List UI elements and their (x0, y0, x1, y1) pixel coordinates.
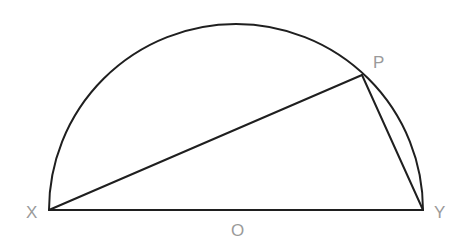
semicircle-arc (49, 24, 423, 210)
label-y: Y (434, 203, 445, 222)
label-p: P (373, 53, 384, 72)
chord-xp (49, 75, 362, 210)
label-x: X (26, 203, 37, 222)
geometry-diagram: X Y P O (0, 0, 465, 240)
chord-py (362, 75, 423, 210)
label-o: O (231, 221, 244, 240)
